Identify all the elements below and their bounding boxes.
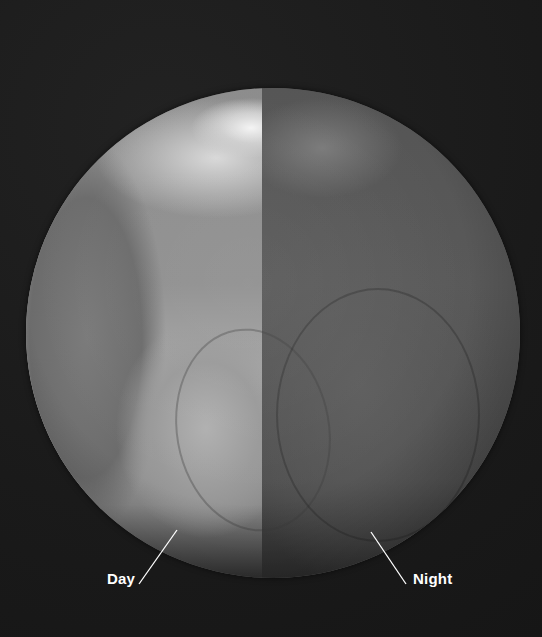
day-leader-line (139, 530, 177, 584)
label-leader-lines (0, 0, 542, 637)
night-label: Night (413, 570, 452, 587)
night-leader-line (371, 532, 406, 584)
day-label: Day (107, 570, 135, 587)
